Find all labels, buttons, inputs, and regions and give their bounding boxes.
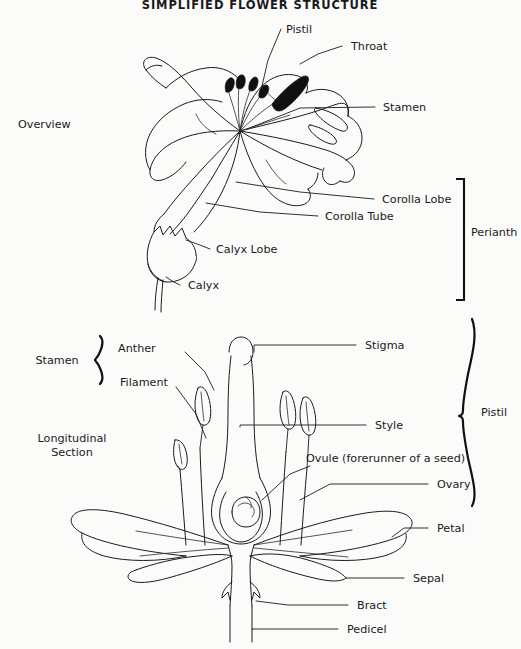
flower-structure-figure: SIMPLIFIED FLOWER STRUCTURE Overview xyxy=(0,0,521,649)
label-ovule: Ovule (forerunner of a seed) xyxy=(306,452,465,465)
figure-title: SIMPLIFIED FLOWER STRUCTURE xyxy=(142,0,378,12)
label-calyx: Calyx xyxy=(188,279,219,292)
section-label-line2: Section xyxy=(51,446,93,459)
label-corolla-lobe: Corolla Lobe xyxy=(382,193,451,206)
label-stamen: Stamen xyxy=(383,101,426,114)
label-style: Style xyxy=(375,419,403,432)
label-pedicel: Pedicel xyxy=(347,623,387,636)
label-filament: Filament xyxy=(120,376,169,389)
label-stigma: Stigma xyxy=(365,339,404,352)
label-corolla-tube: Corolla Tube xyxy=(325,210,394,223)
label-petal: Petal xyxy=(437,522,465,535)
label-perianth: Perianth xyxy=(471,226,517,239)
label-pistil-group: Pistil xyxy=(481,406,507,419)
label-calyx-lobe: Calyx Lobe xyxy=(216,243,278,256)
label-anther: Anther xyxy=(118,342,156,355)
overview-section-label: Overview xyxy=(18,118,71,131)
label-pistil: Pistil xyxy=(286,23,312,36)
label-bract: Bract xyxy=(357,599,387,612)
section-label-line1: Longitudinal xyxy=(38,432,107,445)
label-throat: Throat xyxy=(350,40,388,53)
label-ovary: Ovary xyxy=(437,478,471,491)
label-stamen-group: Stamen xyxy=(35,354,78,367)
label-sepal: Sepal xyxy=(413,572,444,585)
